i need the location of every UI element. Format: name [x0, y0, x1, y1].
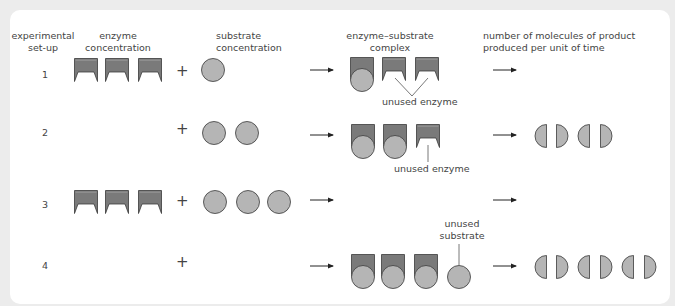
substrate-icon [237, 191, 260, 214]
product-half-icon [578, 256, 590, 279]
substrate-icon [203, 122, 226, 145]
unused-substrate-icon [448, 266, 471, 289]
enzyme-substrate-complex-icon [352, 125, 375, 159]
enzyme-substrate-complex-icon [382, 255, 405, 289]
product-half-icon [557, 256, 569, 279]
substrate-icon [204, 191, 227, 214]
annotation-pointer [395, 78, 428, 96]
enzyme-icon [106, 191, 129, 214]
product-half-icon [557, 125, 569, 148]
enzyme-icon [75, 59, 98, 82]
row-3 [75, 191, 517, 214]
substrate-icon [268, 191, 291, 214]
enzyme-substrate-complex-icon [351, 58, 374, 92]
unused-enzyme-icon [416, 58, 439, 81]
row-4 [310, 244, 656, 289]
substrate-icon [202, 59, 225, 82]
unused-enzyme-icon [383, 58, 406, 81]
product-half-icon [601, 125, 613, 148]
enzyme-substrate-complex-icon [352, 255, 375, 289]
product-half-icon [622, 256, 634, 279]
substrate-icon [236, 122, 259, 145]
enzyme-icon [139, 59, 162, 82]
diagram-graphics [0, 0, 675, 306]
enzyme-substrate-complex-icon [415, 255, 438, 289]
product-half-icon [645, 256, 657, 279]
product-half-icon [535, 125, 547, 148]
row-1 [75, 58, 517, 97]
product-half-icon [535, 256, 547, 279]
product-half-icon [601, 256, 613, 279]
enzyme-icon [106, 59, 129, 82]
enzyme-icon [139, 191, 162, 214]
enzyme-substrate-complex-icon [384, 125, 407, 159]
row-2 [203, 122, 613, 163]
enzyme-icon [75, 191, 98, 214]
product-half-icon [578, 125, 590, 148]
unused-enzyme-icon [417, 125, 440, 148]
